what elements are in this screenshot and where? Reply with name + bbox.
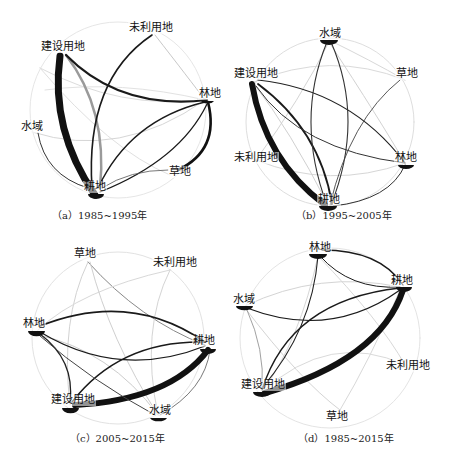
panel-a-node-water: 水域 (20, 121, 44, 133)
panel-c-node-grassland: 草地 (73, 248, 97, 260)
panel-d-node-forest: 林地 (308, 242, 332, 254)
panel-b-node-forest: 林地 (394, 152, 418, 164)
panel-c-node-forest: 林地 (22, 318, 46, 330)
panel-b-caption: （b）1995~2005年 (296, 210, 392, 222)
chord-diagram-figure: 未利用地 建设用地 林地 水域 草地 耕地 （a）1985~1995年 水域 草… (0, 0, 455, 466)
panel-a-node-grassland: 草地 (168, 166, 192, 178)
panel-c-caption: （c）2005~2015年 (70, 433, 165, 445)
panel-b-node-unused-land: 未利用地 (233, 152, 279, 164)
panel-b-node-water: 水域 (318, 28, 342, 40)
panel-d-caption: （d）1985~2015年 (298, 433, 394, 445)
panel-a-node-cropland: 耕地 (83, 181, 107, 193)
panel-a-node-construction-land: 建设用地 (40, 41, 86, 53)
panel-c-node-cropland: 耕地 (192, 335, 216, 347)
panel-a-node-forest: 林地 (198, 88, 222, 100)
panel-d-node-cropland: 耕地 (390, 275, 414, 287)
panel-b-node-grassland: 草地 (395, 68, 419, 80)
panel-d-node-water: 水域 (232, 294, 256, 306)
panel-b-chords (246, 38, 414, 211)
panel-d-node-grassland: 草地 (325, 411, 349, 423)
panel-a-node-unused-land: 未利用地 (128, 22, 174, 34)
panel-c-node-water: 水域 (148, 405, 172, 417)
panel-d-node-unused-land: 未利用地 (385, 360, 431, 372)
panel-d-node-construction-land: 建设用地 (240, 379, 286, 391)
panel-b-node-construction-land: 建设用地 (233, 68, 279, 80)
panel-c-node-unused-land: 未利用地 (152, 257, 198, 269)
panel-b-node-cropland: 耕地 (317, 194, 341, 206)
panel-c-node-construction-land: 建设用地 (50, 394, 96, 406)
panel-a-caption: （a）1985~1995年 (52, 210, 147, 222)
